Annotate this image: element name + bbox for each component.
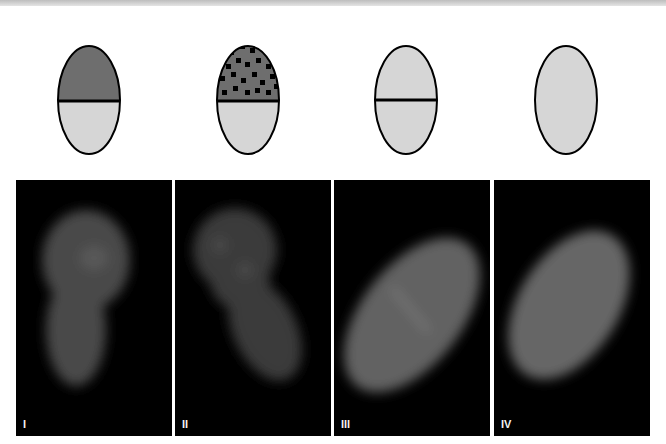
schematic-iii <box>375 46 437 154</box>
panel-label: III <box>341 418 350 430</box>
panel-label: IV <box>501 418 511 430</box>
panel-label: I <box>23 418 26 430</box>
embryo-image-ii <box>175 180 331 436</box>
embryo-image-iii <box>334 180 490 436</box>
embryo-image-iv <box>494 180 650 436</box>
micrograph-panel-iv: IV <box>494 180 650 436</box>
micrograph-panel-ii: II <box>175 180 331 436</box>
schematic-row <box>0 0 666 170</box>
schematic-iv <box>535 46 597 154</box>
micrograph-panel-i: I <box>16 180 172 436</box>
panel-label: II <box>182 418 188 430</box>
embryo-image-i <box>16 180 172 436</box>
micrograph-panel-iii: III <box>334 180 490 436</box>
schematic-ii <box>214 30 284 154</box>
schematic-i <box>55 40 125 154</box>
